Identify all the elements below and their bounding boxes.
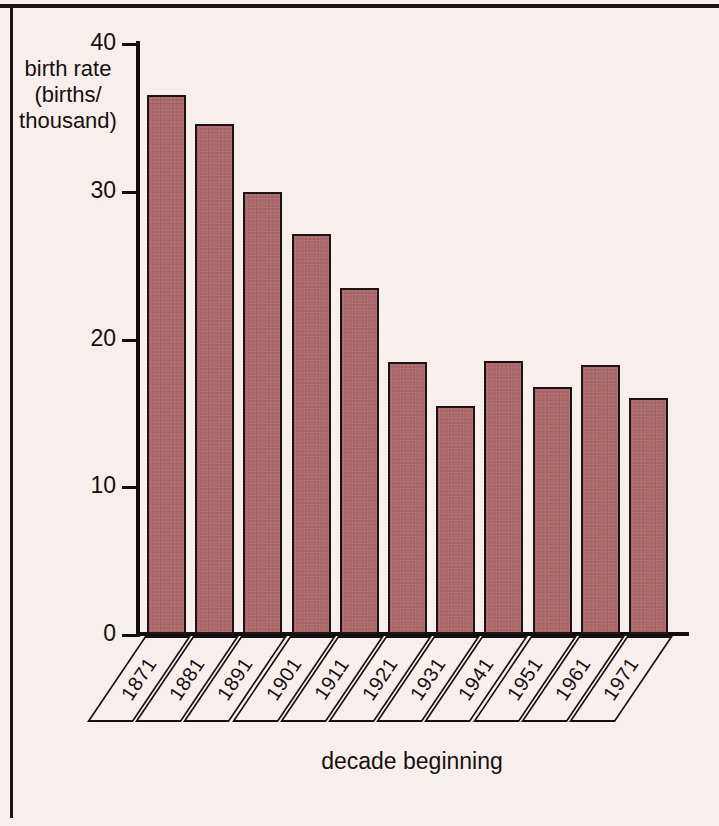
x-axis-title-text: decade beginning bbox=[321, 748, 503, 775]
x-axis-category-labels: 1871188118911901191119211931194119511961… bbox=[0, 636, 719, 736]
bar-1911 bbox=[340, 288, 379, 634]
bar-1931 bbox=[436, 406, 475, 634]
bar-1961 bbox=[581, 365, 620, 634]
plot-area: birth rate (births/ thousand) 010203040 … bbox=[0, 0, 719, 826]
bar-1921 bbox=[388, 362, 427, 634]
x-axis-title: decade beginning bbox=[0, 748, 719, 775]
bar-1871 bbox=[147, 95, 186, 634]
bar-1881 bbox=[195, 124, 234, 634]
bar-1951 bbox=[533, 387, 572, 634]
birth-rate-bar-chart-figure: birth rate (births/ thousand) 010203040 … bbox=[0, 0, 719, 826]
bar-1901 bbox=[292, 234, 331, 634]
bar-series bbox=[0, 0, 719, 634]
bar-1941 bbox=[484, 361, 523, 634]
bar-1971 bbox=[629, 398, 668, 634]
bar-1891 bbox=[243, 192, 282, 634]
